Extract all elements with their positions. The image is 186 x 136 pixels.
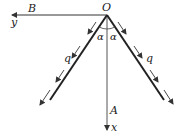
label-angle-right: α xyxy=(110,31,117,42)
label-a: A xyxy=(109,104,118,117)
left-rod xyxy=(50,15,107,100)
label-angle-left: α xyxy=(97,31,104,42)
label-load-left: q xyxy=(64,52,71,65)
label-load-right: q xyxy=(146,52,153,65)
diagram-canvas: O B y α α q q A x xyxy=(0,0,186,136)
label-x-axis: x xyxy=(111,121,118,134)
label-origin: O xyxy=(102,1,111,14)
right-rod xyxy=(107,15,164,100)
label-y-axis: y xyxy=(10,16,18,29)
label-b: B xyxy=(27,2,36,15)
